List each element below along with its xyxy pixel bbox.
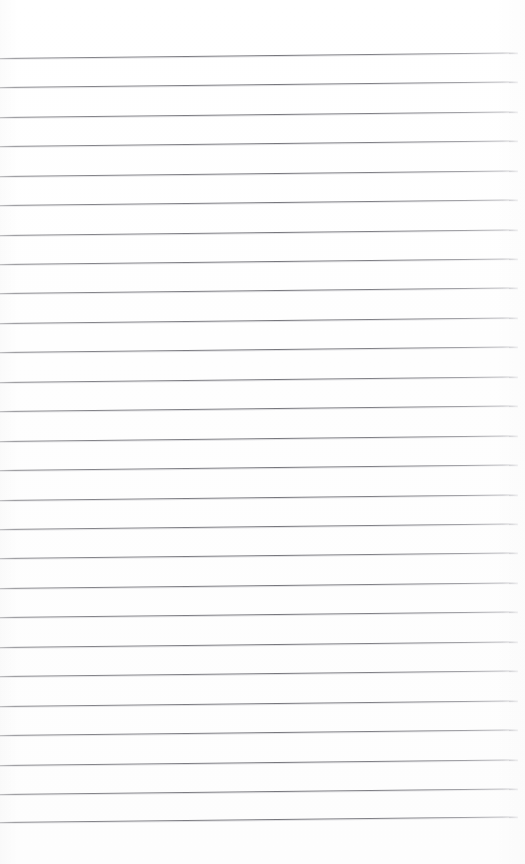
ruled-lines-layer bbox=[0, 0, 525, 864]
ruled-line bbox=[0, 582, 518, 589]
ruled-line bbox=[0, 729, 518, 736]
ruled-line bbox=[0, 229, 518, 236]
ruled-line bbox=[0, 816, 518, 823]
ruled-line bbox=[0, 494, 518, 501]
ruled-line bbox=[0, 552, 518, 559]
ruled-line bbox=[0, 81, 518, 88]
ruled-line bbox=[0, 611, 518, 618]
ruled-line bbox=[0, 700, 518, 707]
ruled-line bbox=[0, 346, 518, 353]
ruled-line bbox=[0, 317, 518, 324]
notepad-page bbox=[0, 0, 525, 864]
ruled-line bbox=[0, 641, 518, 648]
ruled-line bbox=[0, 376, 518, 383]
ruled-line bbox=[0, 670, 518, 677]
ruled-line bbox=[0, 111, 518, 118]
ruled-line bbox=[0, 258, 518, 265]
ruled-line bbox=[0, 788, 518, 795]
ruled-line bbox=[0, 287, 518, 294]
ruled-line bbox=[0, 199, 518, 206]
ruled-line bbox=[0, 52, 518, 59]
ruled-line bbox=[0, 140, 518, 147]
ruled-line bbox=[0, 405, 518, 412]
ruled-line bbox=[0, 435, 518, 442]
ruled-line bbox=[0, 464, 518, 471]
ruled-line bbox=[0, 759, 518, 766]
ruled-line bbox=[0, 523, 518, 530]
ruled-line bbox=[0, 170, 518, 177]
